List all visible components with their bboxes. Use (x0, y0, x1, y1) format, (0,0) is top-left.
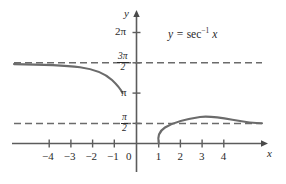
x-tick-label-neg2: −2 (85, 151, 97, 162)
x-tick-label-neg1: −1 (107, 151, 119, 162)
sec-inverse-graph-figure: y x y = sec−1 x 2π 3π 2 π π 2 −4 −3 −2 −… (0, 0, 286, 184)
fraction-pi-2: π 2 (121, 113, 128, 134)
fraction-denominator: 2 (121, 124, 128, 134)
y-tick-label-3pi-over-2: 3π 2 (117, 52, 129, 73)
x-tick-label-3: 3 (199, 151, 205, 162)
equation-exponent: −1 (201, 26, 209, 35)
y-axis-label: y (124, 8, 129, 19)
y-tick-label-pi-over-2: π 2 (121, 113, 128, 134)
fraction-3pi-2: 3π 2 (117, 52, 129, 73)
right-branch-curve (158, 117, 262, 144)
equation-func-name: sec (187, 28, 202, 40)
x-tick-label-1: 1 (156, 151, 162, 162)
y-tick-label-2pi: 2π (115, 26, 126, 37)
x-tick-label-2: 2 (177, 151, 183, 162)
fraction-denominator: 2 (117, 63, 129, 73)
left-branch-curve (14, 64, 123, 93)
equation-argument: x (212, 28, 217, 40)
x-tick-label-4: 4 (221, 151, 227, 162)
x-tick-label-neg4: −4 (42, 151, 54, 162)
equation-function: sec−1 (187, 28, 210, 40)
x-tick-label-origin: 0 (126, 151, 132, 162)
x-tick-label-neg3: −3 (64, 151, 76, 162)
y-tick-label-pi: π (121, 87, 127, 98)
equation-equals: = (176, 28, 184, 40)
equation-annotation: y = sec−1 x (168, 27, 217, 40)
x-axis-label: x (267, 148, 272, 159)
equation-lhs: y (168, 28, 173, 40)
